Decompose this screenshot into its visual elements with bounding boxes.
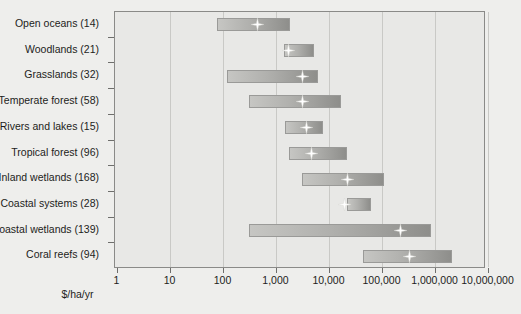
y-axis-category-labels: Open oceans (14)Woodlands (21)Grasslands… (0, 11, 108, 268)
value-range-bar (363, 250, 452, 263)
y-axis-label: Temperate forest (58) (0, 88, 108, 114)
value-range-bar (217, 18, 290, 31)
x-axis-tick (223, 268, 224, 273)
x-axis-tick (382, 268, 383, 273)
x-axis-tick-label: 10,000 (312, 274, 344, 286)
y-axis-label: Coastal wetlands (139) (0, 217, 108, 243)
gridline (488, 12, 489, 267)
y-axis-tick (108, 37, 114, 38)
gridline (170, 12, 171, 267)
value-range-bar (227, 70, 319, 83)
value-range-bar (302, 173, 384, 186)
x-axis-ticks: 1101001,00010,000100,0001,000,00010,000,… (0, 268, 521, 278)
x-axis-tick-label: 100 (214, 274, 232, 286)
plot-area (114, 11, 485, 268)
y-axis-label: Woodlands (21) (25, 37, 108, 63)
x-axis-tick-label: 100,000 (363, 274, 401, 286)
value-range-bar (284, 44, 314, 57)
value-range-chart: Open oceans (14)Woodlands (21)Grasslands… (0, 0, 521, 314)
y-axis-label: Open oceans (14) (15, 11, 108, 37)
y-axis-label: Grasslands (32) (24, 62, 108, 88)
x-axis-title-label: $/ha/yr (61, 288, 93, 300)
value-range-bar (289, 147, 347, 160)
x-axis-tick (488, 268, 489, 273)
y-axis-label: Coastal systems (28) (0, 191, 108, 217)
x-axis-tick (117, 268, 118, 273)
gridline (435, 12, 436, 267)
value-range-bar (249, 224, 430, 237)
x-axis-tick-label: 1 (114, 274, 120, 286)
gridline (223, 12, 224, 267)
y-axis-label: Rivers and lakes (15) (0, 114, 108, 140)
value-range-bar (347, 198, 371, 211)
y-axis-label: Coral reefs (94) (26, 242, 108, 268)
y-axis-tick (108, 88, 114, 89)
x-axis-tick-label: 10,000,000 (461, 274, 514, 286)
y-axis-tick (108, 114, 114, 115)
value-range-bar (249, 95, 342, 108)
y-axis-label: Inland wetlands (168) (0, 165, 108, 191)
x-axis-tick (170, 268, 171, 273)
x-axis-tick-label: 1,000 (262, 274, 288, 286)
y-axis-tick (108, 217, 114, 218)
x-axis-tick-label: 1,000,000 (411, 274, 458, 286)
y-axis-tick (108, 165, 114, 166)
y-axis-tick (108, 140, 114, 141)
y-axis-tick (108, 191, 114, 192)
y-axis-tick (108, 242, 114, 243)
x-axis-tick-label: 10 (164, 274, 176, 286)
y-axis-label: Tropical forest (96) (11, 140, 108, 166)
x-axis-title: $/ha/yr (0, 288, 521, 300)
x-axis-tick (435, 268, 436, 273)
x-axis-tick (329, 268, 330, 273)
x-axis-tick (276, 268, 277, 273)
value-range-bar (285, 121, 324, 134)
y-axis-tick (108, 62, 114, 63)
